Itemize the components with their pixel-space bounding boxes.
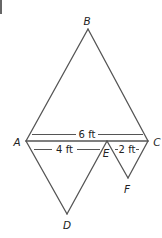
point-label-c: C: [153, 136, 161, 148]
edge-bc: [88, 29, 148, 141]
edge-de: [67, 141, 107, 214]
triangle-diagram: 6 ft 4 ft 2 ft B A C E F D: [0, 0, 162, 238]
point-label-b: B: [83, 15, 90, 27]
point-label-a: A: [12, 136, 20, 148]
dimension-label-ac: 6 ft: [79, 129, 96, 140]
edge-ab: [26, 29, 88, 141]
point-label-d: D: [63, 219, 71, 231]
dimension-label-ae: 4 ft: [56, 144, 73, 155]
dimension-label-ec: 2 ft: [119, 144, 136, 155]
point-label-f: F: [124, 183, 131, 195]
point-label-e: E: [103, 147, 110, 159]
